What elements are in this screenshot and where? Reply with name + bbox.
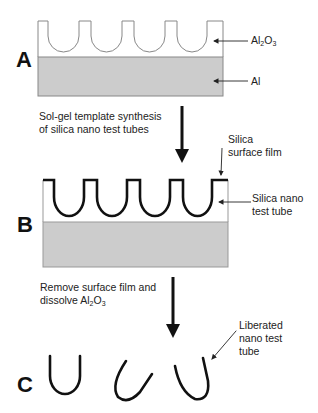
panel-letter-c: C: [17, 372, 33, 398]
label-liberated-tube: Liberatednano testtube: [239, 319, 283, 358]
label-silica-film: Silicasurface film: [228, 133, 282, 159]
panel-letter-b: B: [17, 212, 33, 238]
panel-a-structure: [38, 21, 248, 96]
step2-text: Remove surface film and dissolve Al2O3: [40, 281, 156, 310]
label-aluminum: Al: [251, 75, 260, 88]
liberated-tubes: [50, 331, 236, 400]
silica-film: [43, 180, 228, 216]
panel-b-structure: [43, 148, 251, 267]
label-silica-tube: Silica nanotest tube: [252, 192, 303, 218]
step1-text: Sol-gel template synthesisof silica nano…: [39, 110, 162, 136]
label-alumina: Al2O3: [251, 34, 276, 50]
aluminum-layer: [38, 57, 223, 96]
panel-letter-a: A: [16, 47, 32, 73]
alumina-template: [38, 21, 223, 57]
